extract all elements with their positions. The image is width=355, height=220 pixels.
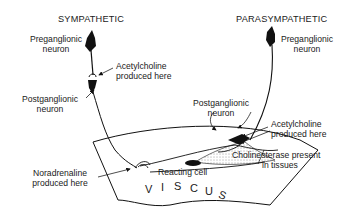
ans-diagram: SYMPATHETIC PARASYMPATHETIC Preganglioni… [0, 0, 355, 220]
viscus-letter: V [145, 183, 152, 195]
parasympathetic-preganglionic-label: Preganglionic neuron [274, 34, 340, 54]
noradrenaline-label: Noradrenaline produced here [24, 168, 96, 188]
cholinesterase-label: Cholinesterase present in tissues [232, 150, 320, 170]
parasympathetic-title: PARASYMPATHETIC [236, 14, 327, 24]
reacting-cell-shape [185, 160, 201, 166]
viscus-letter: I [161, 181, 164, 193]
reacting-cell-label: Reacting cell [158, 167, 207, 177]
sympathetic-title: SYMPATHETIC [58, 14, 124, 24]
viscus-letter: U [205, 185, 213, 197]
sympathetic-acetylcholine-label: Acetylcholine produced here [116, 61, 171, 81]
viscus-letter: S [174, 180, 181, 192]
sympathetic-postganglionic-label: Postganglionic neuron [14, 94, 86, 114]
parasympathetic-acetylcholine-label: Acetylcholine produced here [271, 119, 326, 139]
sympathetic-preganglionic-label: Preganglionic neuron [21, 34, 91, 54]
parasympathetic-postganglionic-label: Postganglionic neuron [185, 98, 257, 118]
viscus-letter: C [190, 182, 198, 194]
